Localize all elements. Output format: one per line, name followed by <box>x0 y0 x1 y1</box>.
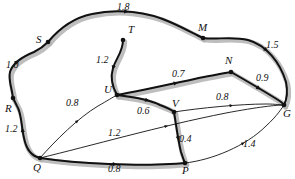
node-label-R: R <box>5 103 12 114</box>
edge-weight-V-G: 0.8 <box>216 92 229 102</box>
edge-weight-Q-G: 1.2 <box>108 128 121 138</box>
edge-weight-U-V: 0.6 <box>137 106 150 116</box>
edge-highlight <box>11 44 50 100</box>
graph-diagram: 1.01.81.51.20.70.91.20.80.60.81.20.40.81… <box>0 0 295 179</box>
graph-canvas <box>0 0 295 179</box>
edge-P-G[interactable] <box>185 105 284 163</box>
edge-weight-R-S: 1.0 <box>6 60 19 70</box>
node-label-U: U <box>104 84 112 95</box>
node-dot-M[interactable] <box>201 36 206 41</box>
node-dot-Q[interactable] <box>38 156 43 161</box>
edge-weight-T-U: 1.2 <box>96 55 109 65</box>
node-label-G: G <box>283 108 291 119</box>
edge-V-G[interactable] <box>174 104 284 112</box>
edge-weight-S-M: 1.8 <box>117 2 130 12</box>
edge-weight-U-N: 0.7 <box>172 69 185 79</box>
edge-highlight <box>113 42 124 97</box>
node-dot-T[interactable] <box>121 38 126 43</box>
node-dot-S[interactable] <box>46 40 51 45</box>
edge-weight-Q-U: 0.8 <box>66 98 79 108</box>
node-label-T: T <box>128 24 134 35</box>
node-label-M: M <box>198 22 207 33</box>
node-dot-R[interactable] <box>11 96 16 101</box>
edge-weight-N-G: 0.9 <box>256 73 269 83</box>
edge-weight-M-G: 1.5 <box>266 40 279 50</box>
arrowhead-V-G <box>230 104 234 107</box>
edge-direction-arrow-layer <box>14 9 269 166</box>
edge-weight-P-G: 1.4 <box>243 139 256 149</box>
edge-weight-Q-R: 1.2 <box>5 124 18 134</box>
node-label-P: P <box>182 165 189 176</box>
edge-weight-V-P: 0.4 <box>179 134 192 144</box>
node-dot-V[interactable] <box>172 110 177 115</box>
edge-weight-Q-P: 0.8 <box>108 164 121 174</box>
node-dot-N[interactable] <box>229 70 234 75</box>
node-dot-U[interactable] <box>115 93 120 98</box>
node-label-N: N <box>225 55 232 66</box>
node-label-S: S <box>36 34 42 45</box>
node-label-Q: Q <box>33 162 41 173</box>
edge-Q-G[interactable] <box>40 105 284 158</box>
node-label-V: V <box>172 98 179 109</box>
